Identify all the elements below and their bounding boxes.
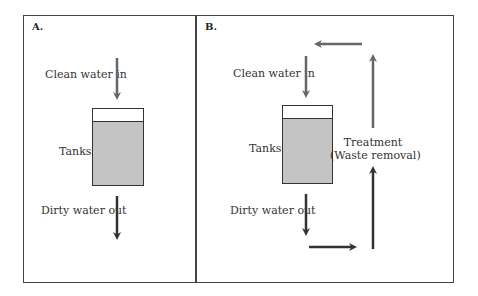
- flow-arrows: [0, 0, 478, 296]
